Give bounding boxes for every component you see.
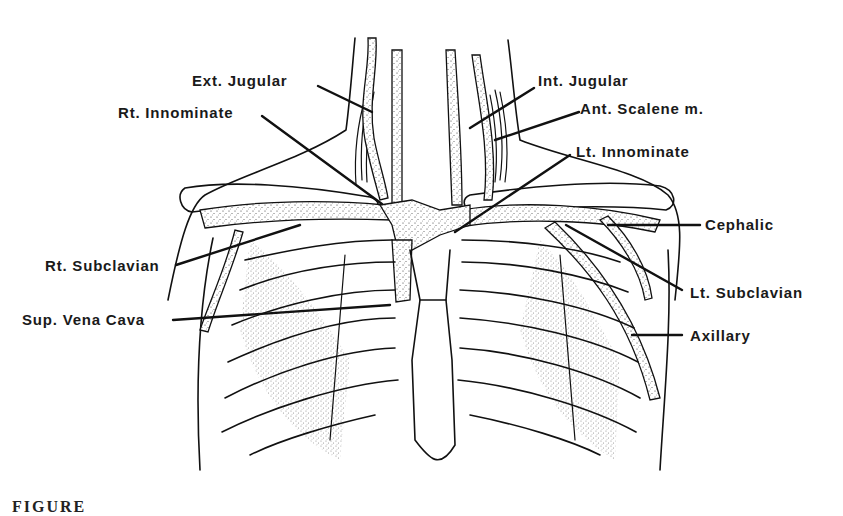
label-sup-vena-cava: Sup. Vena Cava: [22, 311, 145, 328]
label-lt-subclavian: Lt. Subclavian: [690, 284, 803, 301]
ribs-left-side: [458, 240, 640, 460]
label-cephalic: Cephalic: [705, 216, 774, 233]
label-ext-jugular: Ext. Jugular: [192, 72, 287, 89]
sternum: [410, 250, 455, 460]
label-axillary: Axillary: [690, 327, 751, 344]
label-rt-innominate: Rt. Innominate: [118, 104, 233, 121]
jugular-veins: [363, 38, 494, 205]
figure-caption: FIGURE: [12, 498, 86, 516]
ribs-right-side: [222, 240, 398, 460]
label-int-jugular: Int. Jugular: [538, 72, 628, 89]
label-ant-scalene: Ant. Scalene m.: [580, 100, 704, 117]
label-lt-innominate: Lt. Innominate: [576, 143, 690, 160]
label-rt-subclavian: Rt. Subclavian: [45, 257, 160, 274]
